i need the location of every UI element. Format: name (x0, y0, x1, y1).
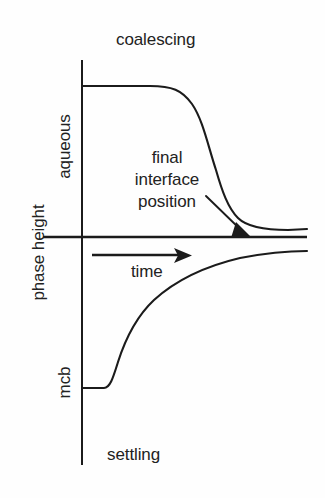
diagram-canvas (0, 0, 325, 498)
label-aqueous: aqueous (55, 101, 74, 193)
phase-height-diagram: coalescing settling time final interface… (0, 0, 325, 498)
label-phase-height: phase height (29, 192, 48, 314)
label-settling: settling (107, 445, 160, 464)
label-time: time (131, 262, 163, 281)
settling-curve (82, 251, 307, 388)
annotation-final-interface-position: final interface position (126, 147, 208, 213)
label-mcb: mcb (55, 350, 74, 416)
annotation-line-1: final (126, 147, 208, 169)
annotation-line-3: position (126, 191, 208, 213)
label-coalescing: coalescing (116, 30, 195, 49)
annotation-line-2: interface (126, 169, 208, 191)
